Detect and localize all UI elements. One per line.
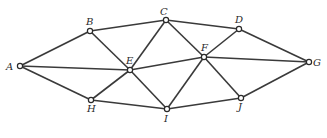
edge-a-b xyxy=(20,31,90,66)
edge-j-g xyxy=(241,62,309,98)
node-label-i: I xyxy=(163,113,169,124)
edge-b-c xyxy=(90,20,166,31)
node-i xyxy=(164,106,169,111)
node-label-b: B xyxy=(85,16,93,27)
edge-i-j xyxy=(167,98,241,109)
edge-b-e xyxy=(90,31,130,70)
edge-f-i xyxy=(167,57,204,109)
node-label-j: J xyxy=(236,101,243,112)
edge-h-i xyxy=(91,100,167,109)
node-label-c: C xyxy=(160,6,168,17)
node-g xyxy=(306,59,311,64)
edge-d-f xyxy=(204,29,239,57)
edge-e-i xyxy=(130,70,167,109)
node-label-a: A xyxy=(5,61,13,72)
edge-a-e xyxy=(20,66,130,70)
node-f xyxy=(201,54,206,59)
graph-diagram: ABCDEFGHIJ xyxy=(0,0,327,138)
node-j xyxy=(238,95,243,100)
edge-f-j xyxy=(204,57,241,98)
edges-group xyxy=(20,20,309,109)
edge-e-f xyxy=(130,57,204,70)
node-b xyxy=(87,28,92,33)
node-label-d: D xyxy=(234,14,243,25)
edge-c-e xyxy=(130,20,166,70)
edge-f-g xyxy=(204,57,309,62)
edge-e-h xyxy=(91,70,130,100)
edge-d-g xyxy=(239,29,309,62)
node-e xyxy=(127,67,132,72)
node-d xyxy=(236,26,241,31)
edge-c-f xyxy=(166,20,204,57)
node-label-e: E xyxy=(125,55,134,66)
node-a xyxy=(17,63,22,68)
edge-a-h xyxy=(20,66,91,100)
node-label-h: H xyxy=(86,103,96,114)
node-h xyxy=(88,97,93,102)
node-c xyxy=(163,17,168,22)
node-label-f: F xyxy=(200,42,209,53)
edge-c-d xyxy=(166,20,239,29)
node-label-g: G xyxy=(313,57,321,68)
